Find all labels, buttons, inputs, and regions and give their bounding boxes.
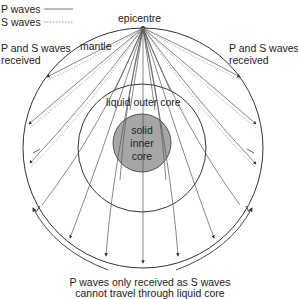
legend-p-waves: P waves (1, 3, 41, 15)
legend-s-waves: S waves (1, 16, 41, 28)
left-received-label-2: received (1, 54, 41, 66)
seismic-wave-diagram: P waves S waves epicentre mantle P and S… (0, 0, 298, 299)
right-received-label-1: P and S waves (229, 42, 298, 54)
inner-core-label-1: solid (122, 124, 162, 136)
outer-core-label: liquid outer core (106, 96, 181, 108)
inner-core-label-2: inner (122, 137, 162, 149)
left-received-label-1: P and S waves (1, 42, 71, 54)
left-shadow-arrow (33, 208, 108, 270)
inner-core-label-3: core (122, 150, 162, 162)
shadow-zone-caption-2: cannot travel through liquid core (40, 287, 260, 299)
mantle-label: mantle (80, 40, 112, 52)
right-received-label-2: received (229, 54, 269, 66)
epicentre-label: epicentre (118, 12, 161, 24)
